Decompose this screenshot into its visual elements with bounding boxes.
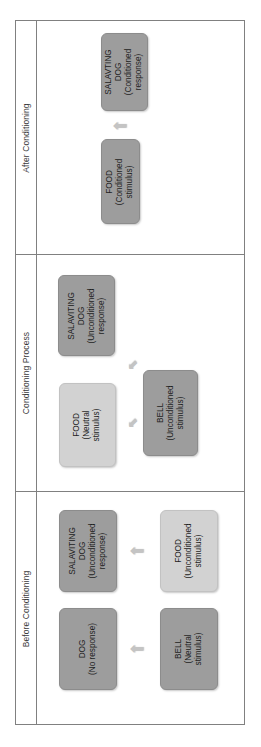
node-line-1: SALAVITING — [68, 523, 78, 578]
section-label-text: Before Conditioning — [21, 570, 31, 647]
node-before-dog[interactable]: DOG (No response) — [59, 608, 117, 690]
node-line-2: (Unconditioned — [166, 385, 176, 440]
section-after-conditioning: After Conditioning FOOD (Conditioned sti… — [16, 21, 244, 254]
node-line-1: DOG — [78, 623, 88, 675]
node-line-4: response) — [97, 288, 107, 343]
node-after-salivating-dog-text: SALAVTING DOG (Conditioned response) — [105, 49, 145, 95]
node-before-bell[interactable]: BELL (Neutral stimulus) — [160, 608, 218, 690]
section-body-after-conditioning: FOOD (Conditioned stimulus) ⬆ SALAVTING … — [37, 21, 244, 254]
node-process-food[interactable]: FOOD (Neutral stimulus) — [59, 383, 116, 467]
diagram-frame: After Conditioning FOOD (Conditioned sti… — [15, 20, 245, 725]
node-line-2: (No response) — [88, 623, 98, 675]
node-line-2: (Unconditioned — [184, 523, 194, 578]
node-after-salivating-dog[interactable]: SALAVTING DOG (Conditioned response) — [101, 33, 148, 111]
section-body-conditioning-process: FOOD (Neutral stimulus) BELL (Unconditio… — [37, 255, 244, 491]
node-before-salivating-dog[interactable]: SALAVITING DOG (Unconditioned response) — [59, 510, 117, 592]
node-line-2: (Conditioned — [116, 158, 126, 204]
section-label-conditioning-process: Conditioning Process — [16, 255, 36, 491]
node-line-2: (Neutral — [184, 633, 194, 666]
node-line-3: stimulus) — [176, 385, 186, 440]
node-line-1: BELL — [174, 633, 184, 666]
node-line-1: SALAVTING — [105, 49, 115, 95]
section-conditioning-process: Conditioning Process FOOD (Neutral stimu… — [16, 254, 244, 491]
node-before-food-text: FOOD (Unconditioned stimulus) — [174, 523, 204, 578]
node-line-4: response) — [98, 523, 108, 578]
node-process-salivating-dog[interactable]: SALAVITING DOG (Unconditioned response) — [58, 275, 115, 356]
node-line-3: (Unconditioned — [87, 288, 97, 343]
node-after-food-text: FOOD (Conditioned stimulus) — [106, 158, 136, 204]
node-line-3: (Unconditioned — [88, 523, 98, 578]
diagram-page: After Conditioning FOOD (Conditioned sti… — [0, 0, 261, 747]
node-line-1: FOOD — [106, 158, 116, 204]
node-before-bell-text: BELL (Neutral stimulus) — [174, 633, 204, 666]
node-line-2: DOG — [115, 49, 125, 95]
node-process-salivating-dog-text: SALAVITING DOG (Unconditioned response) — [67, 288, 107, 343]
section-before-conditioning: Before Conditioning FOOD (Unconditioned … — [16, 491, 244, 725]
block-arrow-glyph: ⬆ — [129, 419, 137, 427]
node-line-4: response) — [135, 49, 145, 95]
section-body-before-conditioning: FOOD (Unconditioned stimulus) BELL (Neut… — [37, 492, 244, 725]
node-line-2: DOG — [78, 523, 88, 578]
section-label-after-conditioning: After Conditioning — [16, 21, 36, 254]
node-line-3: stimulus) — [92, 409, 102, 442]
node-line-2: (Neutral — [82, 409, 92, 442]
node-before-salivating-dog-text: SALAVITING DOG (Unconditioned response) — [68, 523, 108, 578]
node-after-food[interactable]: FOOD (Conditioned stimulus) — [101, 139, 140, 224]
section-label-text: After Conditioning — [21, 103, 31, 172]
node-line-1: FOOD — [72, 409, 82, 442]
node-process-bell[interactable]: BELL (Unconditioned stimulus) — [143, 370, 198, 456]
node-process-food-text: FOOD (Neutral stimulus) — [72, 409, 102, 442]
node-line-3: stimulus) — [194, 633, 204, 666]
node-before-food[interactable]: FOOD (Unconditioned stimulus) — [160, 510, 218, 592]
node-line-1: BELL — [156, 385, 166, 440]
node-line-3: stimulus) — [194, 523, 204, 578]
node-before-dog-text: DOG (No response) — [78, 623, 98, 675]
section-label-before-conditioning: Before Conditioning — [16, 492, 36, 725]
node-line-1: SALAVITING — [67, 288, 77, 343]
node-line-1: FOOD — [174, 523, 184, 578]
node-line-3: (Conditioned — [125, 49, 135, 95]
section-label-text: Conditioning Process — [21, 332, 31, 414]
node-line-3: stimulus) — [126, 158, 136, 204]
node-process-bell-text: BELL (Unconditioned stimulus) — [156, 385, 186, 440]
node-line-2: DOG — [77, 288, 87, 343]
block-arrow-glyph: ⬆ — [129, 361, 137, 369]
